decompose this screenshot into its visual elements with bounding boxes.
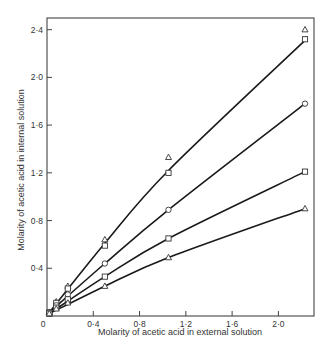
circle-marker (102, 261, 107, 266)
circle-marker (302, 101, 307, 106)
square-marker (302, 37, 307, 42)
fit-curve (49, 172, 305, 314)
y-tick-label: 0·4 (31, 263, 44, 273)
square-marker (65, 286, 70, 291)
triangle-marker (302, 26, 308, 31)
square-marker (302, 169, 307, 174)
y-tick-label: 1·2 (31, 168, 44, 178)
square-marker (102, 243, 107, 248)
y-axis-title: Molarity of acetic acid in internal solu… (16, 89, 26, 251)
triangle-marker (165, 154, 171, 159)
square-marker (102, 274, 107, 279)
plot-frame (47, 18, 314, 316)
triangle-marker (102, 236, 108, 241)
y-tick-label: 1·6 (31, 120, 44, 130)
y-tick-label: 2·0 (31, 72, 44, 82)
fit-curve (49, 209, 305, 314)
triangle-marker (302, 205, 308, 210)
x-tick-label: 2·0 (272, 319, 285, 329)
circle-marker (166, 207, 171, 212)
x-tick-label: 0 (41, 319, 46, 329)
data-markers (46, 26, 308, 316)
x-axis-title: Molarity of acetic acid in external solu… (98, 327, 262, 337)
y-tick-label: 2·4 (31, 25, 44, 35)
chart-canvas: 00·40·81·21·62·0 0·40·81·21·62·02·4 Mola… (0, 0, 332, 358)
square-marker (166, 236, 171, 241)
square-marker (166, 170, 171, 175)
fit-curve (49, 104, 305, 313)
y-tick-label: 0·8 (31, 216, 44, 226)
y-axis-ticks: 0·40·81·21·62·02·4 (31, 25, 52, 274)
fit-curve (49, 40, 305, 312)
fitted-curves (49, 40, 305, 313)
